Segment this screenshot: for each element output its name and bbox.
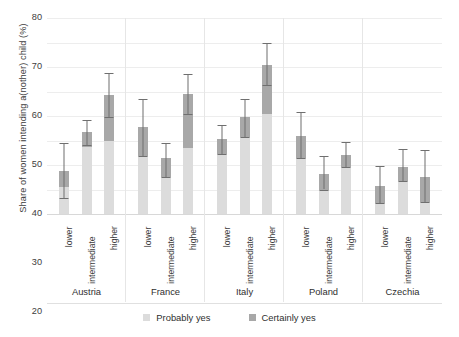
bar-segment-probably-yes[interactable] [375, 203, 385, 214]
x-tick-label-text: lower [380, 227, 390, 248]
bar-segment-probably-yes[interactable] [240, 137, 250, 214]
x-tick-label-text: higher [109, 226, 119, 250]
error-bar-cap-upper [218, 125, 227, 126]
x-tick-label-higher: higher [420, 216, 430, 278]
bar-austria-lower[interactable] [59, 18, 69, 214]
error-bar-cap-upper [398, 149, 407, 150]
error-bar-cap-upper [420, 150, 429, 151]
bar-segment-probably-yes[interactable] [420, 202, 430, 214]
bar-austria-intermediate[interactable] [82, 18, 92, 214]
bar-group-france [126, 18, 205, 214]
error-bar-cap-lower [82, 145, 91, 146]
bar-czechia-lower[interactable] [375, 18, 385, 214]
bar-group-czechia [363, 18, 442, 214]
error-bar-line [108, 73, 109, 117]
error-bar-line [86, 120, 87, 146]
error-bar-line [187, 74, 188, 113]
x-tick-label-higher: higher [341, 216, 351, 278]
error-bar-cap-lower [420, 202, 429, 203]
x-tick-label-intermediate: intermediate [240, 216, 250, 278]
group-label-czechia: Czechia [363, 282, 442, 302]
bar-france-lower[interactable] [138, 18, 148, 214]
category-labels-czechia: lowerintermediatehigher [363, 216, 442, 278]
group-label-austria: Austria [47, 282, 126, 302]
x-tick-label-text: intermediate [245, 236, 255, 283]
group-label-italy: Italy [205, 282, 284, 302]
bar-france-intermediate[interactable] [161, 18, 171, 214]
x-tick-label-text: higher [188, 226, 198, 250]
x-tick-label-lower: lower [217, 216, 227, 278]
legend-item-probably-yes[interactable]: Probably yes [143, 312, 210, 323]
x-tick-label-higher: higher [262, 216, 272, 278]
category-axis-labels: lowerintermediatehigherlowerintermediate… [47, 216, 442, 278]
error-bar-cap-upper [297, 112, 306, 113]
error-bar-cap-lower [297, 158, 306, 159]
error-bar-cap-upper [262, 43, 271, 44]
plot-area: 01020304050607080 [47, 18, 442, 214]
x-tick-label-lower: lower [296, 216, 306, 278]
y-tick-label-50: 50 [32, 160, 42, 169]
legend-item-certainly-yes[interactable]: Certainly yes [249, 312, 316, 323]
bar-segment-probably-yes[interactable] [341, 167, 351, 214]
gridline-0: 0 [47, 214, 442, 215]
x-tick-label-text: intermediate [166, 236, 176, 283]
error-bar-line [301, 112, 302, 157]
legend-label: Certainly yes [262, 312, 316, 323]
x-tick-label-text: lower [222, 227, 232, 248]
legend-swatch-icon [143, 314, 150, 321]
error-bar-cap-upper [341, 142, 350, 143]
error-bar-cap-lower [218, 154, 227, 155]
chart-legend: Probably yesCertainly yes [0, 312, 459, 323]
bar-segment-probably-yes[interactable] [104, 141, 114, 215]
bar-italy-higher[interactable] [262, 18, 272, 214]
bar-group-poland [284, 18, 363, 214]
bar-france-higher[interactable] [183, 18, 193, 214]
error-bar-line [424, 150, 425, 201]
stacked-bar[interactable] [262, 65, 272, 214]
bar-poland-higher[interactable] [341, 18, 351, 214]
bar-czechia-higher[interactable] [420, 18, 430, 214]
bar-poland-intermediate[interactable] [319, 18, 329, 214]
x-tick-label-text: intermediate [403, 236, 413, 283]
y-tick-label-80: 80 [32, 13, 42, 22]
x-tick-label-text: higher [425, 226, 435, 250]
category-labels-france: lowerintermediatehigher [126, 216, 205, 278]
bar-segment-probably-yes[interactable] [296, 158, 306, 214]
error-bar-line [64, 143, 65, 198]
error-bar-line [165, 143, 166, 177]
error-bar-cap-upper [161, 143, 170, 144]
error-bar-cap-upper [104, 73, 113, 74]
x-tick-label-text: intermediate [324, 236, 334, 283]
x-tick-label-intermediate: intermediate [161, 216, 171, 278]
bar-group-austria [47, 18, 126, 214]
x-tick-label-text: lower [143, 227, 153, 248]
error-bar-cap-lower [139, 156, 148, 157]
category-labels-poland: lowerintermediatehigher [284, 216, 363, 278]
bar-segment-probably-yes[interactable] [319, 190, 329, 215]
x-tick-label-text: lower [301, 227, 311, 248]
bar-segment-probably-yes[interactable] [183, 148, 193, 214]
bar-segment-probably-yes[interactable] [398, 181, 408, 214]
error-bar-cap-upper [139, 99, 148, 100]
bar-groups [47, 18, 442, 214]
bar-czechia-intermediate[interactable] [398, 18, 408, 214]
bar-italy-intermediate[interactable] [240, 18, 250, 214]
bar-segment-probably-yes[interactable] [138, 156, 148, 214]
bar-segment-probably-yes[interactable] [82, 147, 92, 214]
x-tick-label-lower: lower [59, 216, 69, 278]
bar-segment-probably-yes[interactable] [217, 154, 227, 214]
error-bar-cap-lower [319, 190, 328, 191]
bar-austria-higher[interactable] [104, 18, 114, 214]
bar-group-italy [205, 18, 284, 214]
error-bar-cap-lower [104, 117, 113, 118]
bar-segment-probably-yes[interactable] [161, 177, 171, 214]
axis-bottom-rule [47, 303, 442, 304]
error-bar-cap-lower [60, 198, 69, 199]
chart-container: Share of women intending a(nother) child… [0, 0, 459, 337]
bar-segment-probably-yes[interactable] [262, 114, 272, 214]
x-tick-label-text: higher [346, 226, 356, 250]
error-bar-cap-lower [341, 167, 350, 168]
bar-poland-lower[interactable] [296, 18, 306, 214]
x-tick-label-text: intermediate [87, 236, 97, 283]
bar-italy-lower[interactable] [217, 18, 227, 214]
